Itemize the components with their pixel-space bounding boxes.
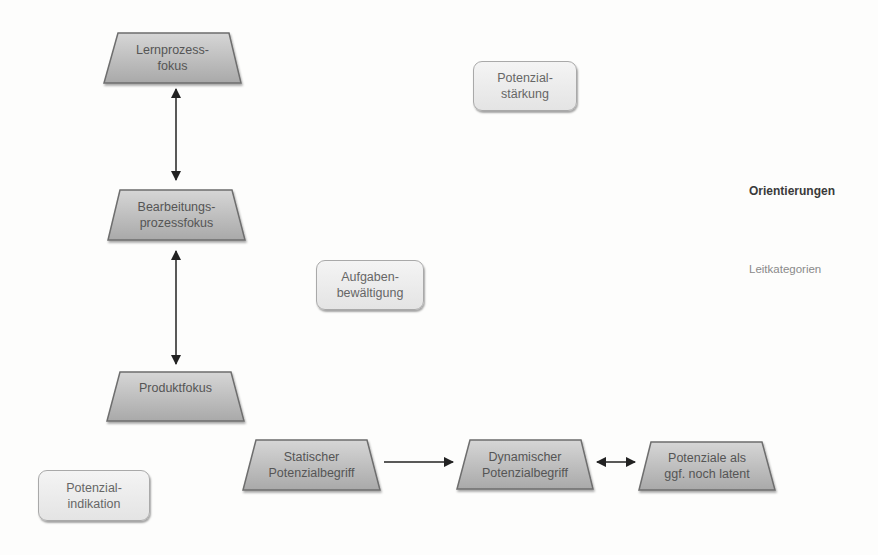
- trapezoid-lernprozessfokus: [104, 33, 241, 83]
- diagram-canvas: Lernprozess- fokus Bearbeitungs- prozess…: [0, 0, 878, 555]
- trapezoid-potenziale-latent: [639, 442, 775, 490]
- box-aufgabenbewaeltigung: Aufgaben- bewältigung: [316, 260, 424, 310]
- trapezoid-produktfokus: [107, 372, 244, 421]
- trapezoid-dynamischer-potenzialbegriff: [457, 440, 593, 489]
- trapezoid-bearbeitungsprozessfokus: [108, 190, 245, 240]
- box-potenzialstaerkung: Potenzial- stärkung: [473, 61, 577, 111]
- legend-orientierungen: Orientierungen: [749, 184, 835, 198]
- box-potenzialindikation: Potenzial- indikation: [38, 470, 150, 521]
- legend-leitkategorien: Leitkategorien: [749, 263, 821, 275]
- trapezoid-statischer-potenzialbegriff: [243, 440, 380, 490]
